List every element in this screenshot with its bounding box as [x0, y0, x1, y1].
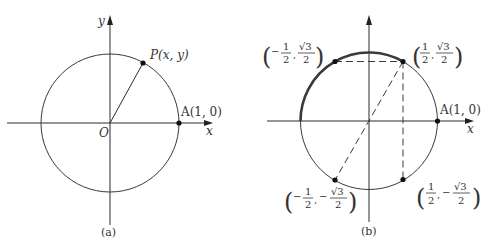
point-lower-left — [332, 177, 337, 182]
svg-text:1: 1 — [283, 41, 289, 52]
radius-op — [110, 63, 143, 123]
svg-text:2: 2 — [335, 199, 341, 210]
svg-text:√3: √3 — [331, 186, 344, 197]
caption-b: (b) — [361, 225, 377, 238]
svg-text:(: ( — [284, 188, 293, 216]
point-a-label-b: A(1, 0) — [439, 103, 481, 117]
svg-text:): ) — [315, 43, 324, 71]
origin-label: O — [99, 126, 109, 140]
svg-text:,: , — [437, 189, 440, 200]
x-axis-label-b: x — [467, 122, 474, 136]
y-axis-label: y — [97, 14, 105, 28]
svg-text:1: 1 — [422, 41, 428, 52]
svg-text:(: ( — [412, 43, 421, 71]
svg-text:): ) — [454, 43, 463, 71]
x-axis-label: x — [206, 124, 213, 138]
point-a-b — [435, 118, 440, 123]
caption-a: (a) — [101, 226, 116, 239]
svg-text:2: 2 — [441, 54, 447, 65]
svg-text:(: ( — [262, 43, 271, 71]
label-upper-right: ( 1 2 , √3 2 ) — [412, 41, 463, 71]
label-lower-right: ( 1 2 , − √3 2 ) — [416, 181, 481, 212]
point-lower-right — [400, 177, 405, 182]
svg-text:√3: √3 — [437, 41, 450, 52]
svg-text:2: 2 — [305, 199, 311, 210]
svg-text:1: 1 — [428, 181, 434, 192]
svg-text:(: ( — [416, 184, 425, 212]
point-a-label: A(1, 0) — [180, 105, 222, 119]
svg-text:,: , — [314, 194, 317, 205]
svg-text:,: , — [293, 49, 296, 60]
point-upper-left — [332, 59, 337, 64]
svg-text:): ) — [348, 188, 357, 216]
point-a — [176, 120, 181, 125]
svg-text:1: 1 — [305, 186, 311, 197]
label-lower-left: ( − 1 2 , − √3 2 ) — [284, 186, 357, 216]
unit-circle-figures: y x O P(x, y) A(1, 0) (a) x A(1, 0) (b) — [0, 0, 493, 250]
point-p — [140, 60, 145, 65]
y-axis-arrow-icon — [107, 15, 113, 25]
label-upper-left: ( − 1 2 , √3 2 ) — [262, 41, 324, 71]
svg-text:√3: √3 — [299, 41, 312, 52]
svg-text:−: − — [271, 46, 279, 57]
figure-a: y x O P(x, y) A(1, 0) (a) — [7, 14, 222, 239]
svg-text:−: − — [319, 191, 327, 202]
svg-text:2: 2 — [303, 54, 309, 65]
svg-text:−: − — [293, 191, 301, 202]
point-upper-right — [400, 59, 405, 64]
svg-text:−: − — [442, 187, 450, 198]
svg-text:2: 2 — [422, 54, 428, 65]
y-axis-arrow-icon — [366, 15, 372, 25]
svg-text:√3: √3 — [454, 181, 467, 192]
svg-text:2: 2 — [283, 54, 289, 65]
svg-text:2: 2 — [428, 195, 434, 206]
svg-text:2: 2 — [458, 195, 464, 206]
figure-b: x A(1, 0) (b) ( − 1 2 , √3 2 ) ( 1 2 , √… — [262, 15, 481, 238]
svg-text:,: , — [431, 49, 434, 60]
point-p-label: P(x, y) — [149, 48, 189, 62]
svg-text:): ) — [472, 184, 481, 212]
